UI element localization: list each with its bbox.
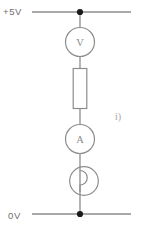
resistor-symbol: [73, 69, 87, 109]
part-label: i): [115, 112, 121, 122]
ground-rail-label: 0V: [8, 211, 21, 221]
voltmeter-letter: V: [76, 37, 84, 48]
voltmeter-symbol: V: [66, 28, 95, 57]
circuit-diagram: V A +5V 0V i): [0, 0, 144, 234]
resistor-body: [73, 69, 87, 109]
top-node: [77, 9, 83, 15]
circuit-schematic-canvas: V A: [0, 0, 144, 234]
supply-rail-label: +5V: [3, 7, 22, 17]
bottom-node: [77, 211, 83, 217]
lamp-filament-arc: [80, 171, 87, 192]
ammeter-symbol: A: [66, 125, 95, 154]
ammeter-letter: A: [76, 134, 84, 145]
lamp-symbol: [70, 167, 99, 196]
